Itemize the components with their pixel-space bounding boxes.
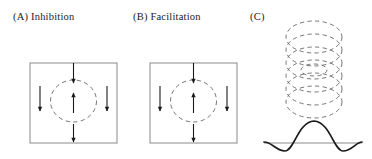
panel-c-ellipse [286,47,342,79]
panel-c-mexican-hat-curve [264,121,362,151]
panel-a-diagram [30,63,117,143]
panel-c-ellipse [286,86,342,118]
panel-c-ellipse [286,34,342,66]
panel-c-diagram [264,21,362,151]
panel-c-ellipse [286,73,342,105]
panel-c-ellipse [286,21,342,53]
figure-graphics [0,0,372,159]
figure-container: (A) Inhibition (B) Facilitation (C) [0,0,372,159]
panel-c-ellipse-stack [286,21,342,118]
panel-b-diagram [150,63,237,143]
